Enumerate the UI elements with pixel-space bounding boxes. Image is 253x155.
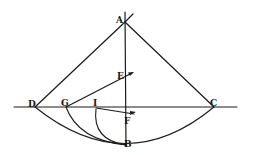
label-c: C [210,98,217,108]
label-e: E [117,71,124,81]
label-g: G [61,98,69,108]
line-a-c [125,22,214,107]
line-a-d [35,22,125,107]
label-d: D [28,99,36,109]
label-b: B [124,139,132,149]
arrowhead-e [128,72,134,76]
label-f: F [124,116,131,126]
geometric-diagram: A B C D E F G I [0,0,253,155]
label-a: A [115,15,124,25]
line-i-f [96,108,134,114]
tick-at-a [125,14,133,22]
label-i: I [93,98,97,108]
